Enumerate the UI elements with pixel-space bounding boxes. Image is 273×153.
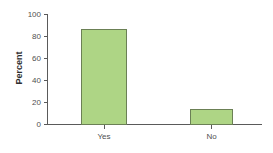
x-tick-label: Yes	[97, 132, 110, 141]
bar-no	[191, 110, 233, 125]
bar-yes	[82, 29, 127, 124]
y-tick-label: 80	[32, 32, 41, 41]
y-tick-label: 60	[32, 54, 41, 63]
bar-chart-figure: Percent 100 80 60 40 20	[0, 0, 273, 153]
y-tick-label: 20	[32, 98, 41, 107]
x-tick-label: No	[206, 132, 217, 141]
y-tick-label: 0	[37, 120, 42, 129]
chart-canvas: Percent 100 80 60 40 20	[0, 0, 273, 153]
y-tick-label: 100	[28, 10, 42, 19]
y-axis-title: Percent	[14, 51, 24, 84]
y-tick-label: 40	[32, 76, 41, 85]
